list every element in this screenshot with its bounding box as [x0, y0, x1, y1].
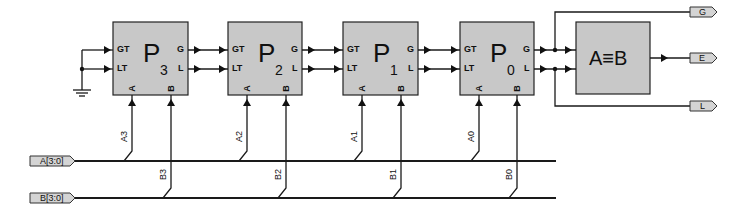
p3-lt-pin: LT	[117, 64, 127, 73]
p3-a-pin: A	[128, 85, 137, 92]
p3-l-pin: L	[178, 64, 184, 73]
p2-subscript: 2	[275, 63, 283, 77]
p0-label: P	[490, 40, 507, 66]
tap-a2-label: A2	[235, 131, 244, 142]
output-g-label: G	[699, 8, 706, 17]
p0-l-pin: L	[524, 64, 530, 73]
tap-b2-label: B2	[274, 169, 283, 180]
p1-subscript: 1	[390, 63, 398, 77]
p2-gt-pin: GT	[232, 45, 245, 54]
p1-gt-pin: GT	[347, 45, 360, 54]
output-e-label: E	[699, 54, 705, 63]
p0-b-pin: B	[513, 85, 522, 92]
p0-g-pin: G	[523, 45, 530, 54]
p3-subscript: 3	[160, 63, 168, 77]
p2-a-pin: A	[243, 85, 252, 92]
p2-l-pin: L	[292, 64, 298, 73]
output-l-label: L	[700, 102, 705, 111]
tap-b0-label: B0	[505, 169, 514, 180]
p1-g-pin: G	[407, 45, 414, 54]
tap-b1-label: B1	[389, 169, 398, 180]
p3-b-pin: B	[167, 85, 176, 92]
p1-label: P	[373, 40, 390, 66]
comparator-schematic	[0, 0, 742, 208]
p2-lt-pin: LT	[232, 64, 242, 73]
p2-label: P	[258, 40, 275, 66]
p2-g-pin: G	[291, 45, 298, 54]
tap-a0-label: A0	[467, 131, 476, 142]
p1-lt-pin: LT	[347, 64, 357, 73]
p3-label: P	[143, 40, 160, 66]
input-b-label: B[3:0]	[40, 194, 64, 203]
input-a-label: A[3:0]	[40, 157, 64, 166]
p2-b-pin: B	[282, 85, 291, 92]
tap-b3-label: B3	[159, 169, 168, 180]
tap-a1-label: A1	[350, 131, 359, 142]
p0-subscript: 0	[507, 63, 515, 77]
p0-lt-pin: LT	[464, 64, 474, 73]
p1-b-pin: B	[397, 85, 406, 92]
p0-gt-pin: GT	[464, 45, 477, 54]
p1-a-pin: A	[358, 85, 367, 92]
ground-symbol	[73, 50, 91, 96]
p0-a-pin: A	[475, 85, 484, 92]
equality-label: A≡B	[589, 48, 627, 68]
p3-gt-pin: GT	[117, 45, 130, 54]
tap-a3-label: A3	[120, 131, 129, 142]
p3-g-pin: G	[177, 45, 184, 54]
p1-l-pin: L	[408, 64, 414, 73]
